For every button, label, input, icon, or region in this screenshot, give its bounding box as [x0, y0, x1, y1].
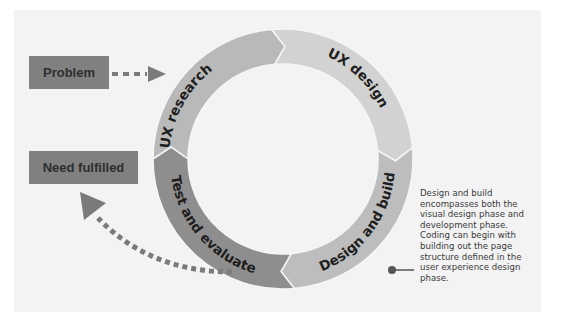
segment-ux-design: [272, 29, 413, 161]
problem-label: Problem: [43, 65, 95, 80]
need-fulfilled-box: Need fulfilled: [29, 151, 138, 184]
arrowhead-icon: [148, 66, 166, 82]
arrowhead-icon: [80, 192, 106, 220]
problem-arrow: [112, 66, 166, 82]
connector-dot-icon: [388, 266, 396, 274]
need-fulfilled-label: Need fulfilled: [43, 160, 125, 175]
segment-test-and-evaluate: [153, 147, 294, 289]
note-connector: [388, 266, 414, 274]
design-build-note: Design and build encompasses both the vi…: [420, 188, 540, 283]
problem-box: Problem: [29, 56, 109, 89]
